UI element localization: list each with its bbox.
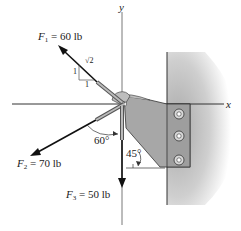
slope-run-label: 1 — [85, 81, 89, 89]
force-f2-arrow — [30, 120, 96, 156]
slope-hyp-label: √2 — [85, 57, 93, 65]
bolt-middle — [174, 131, 184, 141]
bolt-bottom — [174, 155, 184, 165]
slope-rise-label: 1 — [73, 68, 77, 76]
force-f3-label: F3 = 50 lb — [66, 189, 110, 202]
diagram-canvas — [0, 0, 241, 231]
x-axis-label: x — [226, 99, 231, 110]
y-axis-label: y — [119, 2, 124, 13]
angle-60-label: 60° — [94, 135, 109, 146]
force-f1-label: F1 = 60 lb — [38, 31, 82, 44]
force-f3-arrow — [118, 140, 126, 188]
member-rods — [96, 82, 124, 140]
angle-45-label: 45° — [126, 148, 141, 159]
statics-diagram: y x F1 = 60 lb F2 = 70 lb F3 = 50 lb √2 … — [0, 0, 241, 231]
force-f2-label: F2 = 70 lb — [17, 158, 61, 171]
bolt-top — [174, 109, 184, 119]
